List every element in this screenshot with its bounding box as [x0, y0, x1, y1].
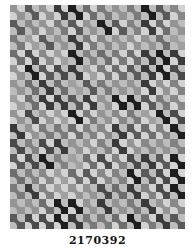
background-corner — [54, 12, 61, 19]
bowtie-block — [141, 184, 156, 199]
bowtie-block — [170, 214, 185, 229]
image-caption: 2170392 — [0, 234, 195, 247]
bowtie-block — [10, 95, 25, 110]
background-corner — [68, 42, 75, 49]
bowtie-block — [112, 80, 127, 95]
bowtie-block — [112, 50, 127, 65]
bowtie-block — [112, 35, 127, 50]
background-corner — [141, 192, 148, 199]
background-corner — [39, 27, 46, 34]
bowtie-block — [39, 184, 54, 199]
background-corner — [170, 102, 177, 109]
background-corner — [10, 57, 17, 64]
background-corner — [61, 169, 68, 176]
background-corner — [46, 139, 53, 146]
bowtie-block — [83, 65, 98, 80]
background-corner — [170, 192, 177, 199]
bowtie-block — [97, 124, 112, 139]
background-corner — [32, 199, 39, 206]
bowtie-block — [39, 169, 54, 184]
background-corner — [112, 27, 119, 34]
bowtie-block — [127, 95, 142, 110]
background-corner — [32, 139, 39, 146]
background-corner — [46, 214, 53, 221]
background-corner — [39, 57, 46, 64]
background-corner — [127, 57, 134, 64]
background-corner — [112, 102, 119, 109]
bowtie-block — [10, 50, 25, 65]
bowtie-block — [112, 154, 127, 169]
background-corner — [119, 214, 126, 221]
background-corner — [141, 117, 148, 124]
background-corner — [46, 50, 53, 57]
background-corner — [97, 102, 104, 109]
background-corner — [134, 65, 141, 72]
background-corner — [163, 65, 170, 72]
background-corner — [76, 110, 83, 117]
background-corner — [54, 192, 61, 199]
background-corner — [97, 12, 104, 19]
bowtie-block — [112, 124, 127, 139]
bowtie-block — [68, 110, 83, 125]
background-corner — [134, 139, 141, 146]
background-corner — [134, 95, 141, 102]
bowtie-block — [156, 214, 171, 229]
bowtie-block — [156, 139, 171, 154]
background-corner — [39, 12, 46, 19]
background-corner — [32, 154, 39, 161]
background-corner — [119, 20, 126, 27]
bowtie-block — [10, 214, 25, 229]
bowtie-block — [97, 199, 112, 214]
bowtie-block — [97, 95, 112, 110]
background-corner — [163, 154, 170, 161]
background-corner — [39, 87, 46, 94]
bowtie-block — [141, 20, 156, 35]
bowtie-block — [54, 35, 69, 50]
bowtie-block — [54, 199, 69, 214]
background-corner — [156, 117, 163, 124]
background-corner — [61, 50, 68, 57]
bowtie-block — [127, 124, 142, 139]
background-corner — [90, 50, 97, 57]
bowtie-block — [83, 80, 98, 95]
background-corner — [39, 102, 46, 109]
background-corner — [156, 57, 163, 64]
background-corner — [68, 222, 75, 229]
background-corner — [105, 139, 112, 146]
background-corner — [134, 214, 141, 221]
bowtie-block — [141, 95, 156, 110]
bowtie-block — [141, 35, 156, 50]
background-corner — [83, 87, 90, 94]
bowtie-block — [170, 20, 185, 35]
background-corner — [46, 199, 53, 206]
background-corner — [90, 169, 97, 176]
bowtie-block — [156, 5, 171, 20]
background-corner — [141, 42, 148, 49]
background-corner — [17, 50, 24, 57]
background-corner — [17, 20, 24, 27]
background-corner — [141, 177, 148, 184]
background-corner — [97, 222, 104, 229]
background-corner — [76, 65, 83, 72]
bowtie-block — [25, 65, 40, 80]
bowtie-block — [127, 65, 142, 80]
bowtie-block — [83, 20, 98, 35]
background-corner — [90, 214, 97, 221]
bowtie-block — [25, 154, 40, 169]
bowtie-block — [127, 139, 142, 154]
bowtie-block — [54, 5, 69, 20]
background-corner — [17, 95, 24, 102]
background-corner — [83, 117, 90, 124]
bowtie-block — [25, 214, 40, 229]
bowtie-block — [156, 110, 171, 125]
bowtie-block — [68, 154, 83, 169]
bowtie-block — [68, 65, 83, 80]
background-corner — [127, 102, 134, 109]
bowtie-block — [170, 95, 185, 110]
background-corner — [127, 147, 134, 154]
background-corner — [61, 139, 68, 146]
bowtie-block — [127, 5, 142, 20]
background-corner — [156, 132, 163, 139]
background-corner — [54, 162, 61, 169]
bowtie-block — [112, 95, 127, 110]
